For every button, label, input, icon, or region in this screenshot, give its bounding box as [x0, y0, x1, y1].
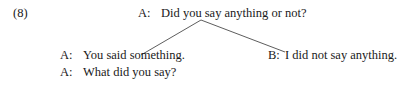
- speaker-label: B:: [268, 48, 285, 62]
- utterance-text: You said something.: [83, 48, 185, 62]
- left-utterance-1: A:You said something.: [60, 48, 185, 62]
- left-utterance-2: A:What did you say?: [60, 65, 176, 79]
- utterance-text: What did you say?: [83, 65, 176, 79]
- speaker-label: A:: [60, 48, 83, 62]
- utterance-text: I did not say anything.: [285, 48, 397, 62]
- right-utterance-1: B:I did not say anything.: [268, 48, 397, 62]
- speaker-label: A:: [60, 65, 83, 79]
